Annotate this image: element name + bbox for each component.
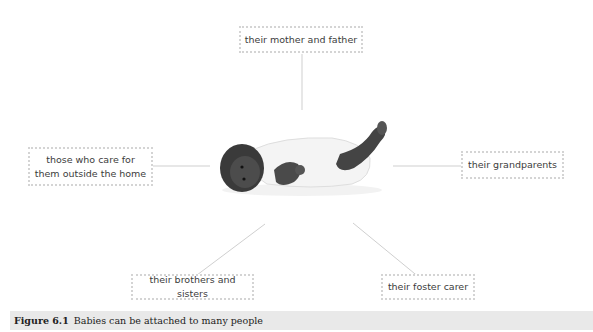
node-outside-carers: those who care for them outside the home — [28, 147, 153, 186]
node-brothers-and-sisters: their brothers and sisters — [131, 274, 254, 300]
baby-image — [212, 118, 392, 198]
figure-caption: Figure 6.1Babies can be attached to many… — [10, 311, 593, 330]
attachment-diagram: their mother and father those who care f… — [0, 0, 593, 332]
node-mother-and-father: their mother and father — [239, 26, 363, 53]
figure-number: Figure 6.1 — [14, 315, 69, 326]
caption-text: Babies can be attached to many people — [74, 315, 263, 326]
connector-bottom-left — [193, 224, 265, 278]
connector-bottom-right — [353, 223, 420, 278]
node-grandparents: their grandparents — [461, 151, 564, 179]
node-foster-carer: their foster carer — [381, 274, 475, 300]
